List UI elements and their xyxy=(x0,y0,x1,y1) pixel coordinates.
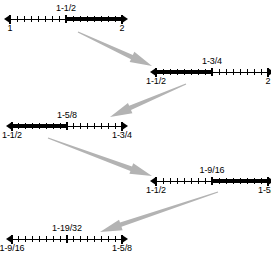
right-endpoint-label: 1-5/8 xyxy=(112,243,132,253)
flow-arrow-icon xyxy=(48,137,152,176)
left-endpoint-label: 1-9/16 xyxy=(0,243,24,253)
left-arrowhead-icon xyxy=(150,178,155,185)
right-endpoint-label: 2 xyxy=(266,76,271,86)
right-endpoint-label: 1-5/8 xyxy=(258,185,271,195)
left-arrowhead-icon xyxy=(6,236,11,243)
left-arrowhead-icon xyxy=(4,16,9,23)
midpoint-label: 1-19/32 xyxy=(52,223,82,233)
right-arrowhead-icon xyxy=(269,69,271,76)
midpoint-label: 1-9/16 xyxy=(200,165,225,175)
left-endpoint-label: 1-1/2 xyxy=(146,185,166,195)
right-endpoint-label: 2 xyxy=(120,23,125,33)
midpoint-label: 1-5/8 xyxy=(57,110,77,120)
left-arrowhead-icon xyxy=(6,123,11,130)
left-endpoint-label: 1-1/2 xyxy=(146,76,166,86)
left-endpoint-label: 1-1/2 xyxy=(2,130,22,140)
flow-arrow-icon xyxy=(78,31,152,66)
left-arrowhead-icon xyxy=(150,69,155,76)
midpoint-label: 1-3/4 xyxy=(202,56,222,66)
diagram-canvas: 1-1/2121-3/41-1/221-5/81-1/21-3/41-9/161… xyxy=(0,0,271,263)
right-arrowhead-icon xyxy=(123,236,128,243)
right-arrowhead-icon xyxy=(269,178,271,185)
right-arrowhead-icon xyxy=(123,123,128,130)
right-endpoint-label: 1-3/4 xyxy=(112,130,132,140)
midpoint-label: 1-1/2 xyxy=(56,3,76,13)
left-endpoint-label: 1 xyxy=(8,23,13,33)
right-arrowhead-icon xyxy=(123,16,128,23)
